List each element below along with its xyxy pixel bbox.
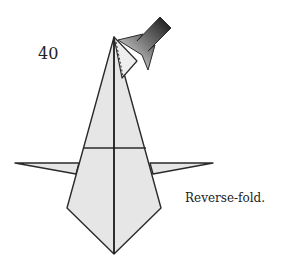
origami-diagram: 40 Reverse-fold. xyxy=(0,0,287,268)
step-number: 40 xyxy=(38,44,58,63)
origami-figure xyxy=(0,0,287,268)
step-caption: Reverse-fold. xyxy=(185,191,265,205)
left-wing xyxy=(15,163,79,174)
right-wing xyxy=(150,163,213,174)
